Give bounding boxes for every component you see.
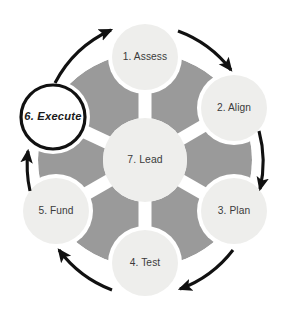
node-execute-label: 6. Execute	[24, 110, 81, 122]
hub-node-lead[interactable]: 7. Lead	[103, 118, 187, 202]
node-execute[interactable]: 6. Execute	[21, 85, 85, 149]
node-plan-label: 3. Plan	[218, 205, 250, 216]
hub-node-label: 7. Lead	[127, 154, 162, 165]
node-plan[interactable]: 3. Plan	[201, 178, 267, 244]
node-assess[interactable]: 1. Assess	[112, 24, 178, 90]
cycle-diagram-canvas: 7. Lead 1. Assess 2. Align 3. Plan 4. Te…	[0, 0, 288, 328]
node-align-label: 2. Align	[217, 102, 251, 113]
node-assess-label: 1. Assess	[123, 51, 168, 62]
cycle-diagram: 7. Lead 1. Assess 2. Align 3. Plan 4. Te…	[0, 0, 288, 328]
node-align[interactable]: 2. Align	[201, 75, 267, 141]
arrow-fund-to-execute	[27, 151, 30, 191]
node-test[interactable]: 4. Test	[112, 230, 178, 296]
arrow-align-to-plan	[259, 131, 263, 189]
node-fund-label: 5. Fund	[38, 205, 73, 216]
node-fund[interactable]: 5. Fund	[23, 178, 89, 244]
node-test-label: 4. Test	[130, 257, 161, 268]
